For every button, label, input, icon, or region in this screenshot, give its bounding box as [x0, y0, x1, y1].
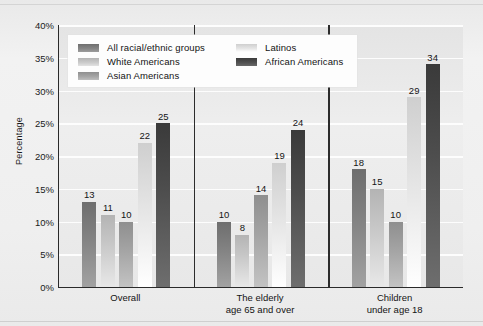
legend-item: Latinos — [236, 41, 343, 55]
bar-value-label: 15 — [362, 176, 392, 187]
bar-value-label: 19 — [264, 150, 294, 161]
bar — [156, 123, 170, 287]
bar-value-label: 13 — [74, 189, 104, 200]
bar-value-label: 18 — [344, 157, 374, 168]
category-label-line: Overall — [110, 292, 140, 304]
y-axis-tick-0%: 0% — [8, 282, 54, 293]
legend-label: African Americans — [265, 56, 343, 67]
bar-value-label: 14 — [246, 183, 276, 194]
bar-chart: Percentage 0%5%10%15%20%25%30%35%40% 131… — [0, 0, 483, 326]
y-axis-tick-25%: 25% — [8, 118, 54, 129]
bar-value-label: 10 — [111, 209, 141, 220]
legend-label: Asian Americans — [107, 70, 179, 81]
category-label-line: age 65 and over — [226, 304, 295, 316]
legend-column-right: LatinosAfrican Americans — [236, 41, 343, 69]
y-axis-tick-10%: 10% — [8, 216, 54, 227]
y-axis-tick-labels: 0%5%10%15%20%25%30%35%40% — [0, 0, 54, 326]
legend-item: Asian Americans — [78, 69, 205, 83]
bar-value-label: 25 — [148, 111, 178, 122]
category-label-line: under age 18 — [367, 304, 423, 316]
x-axis-category-label: Overall — [110, 292, 140, 304]
x-axis-category-label: The elderlyage 65 and over — [226, 292, 295, 315]
legend-item: White Americans — [78, 55, 205, 69]
legend-item: African Americans — [236, 55, 343, 69]
legend-swatch-icon — [78, 44, 99, 52]
legend-item: All racial/ethnic groups — [78, 41, 205, 55]
y-axis-tick-40%: 40% — [8, 20, 54, 31]
bar-value-label: 29 — [399, 85, 429, 96]
category-label-line: The elderly — [226, 292, 295, 304]
bar-value-label: 24 — [283, 117, 313, 128]
bar-value-label: 22 — [130, 130, 160, 141]
bar — [254, 195, 268, 287]
bar — [370, 189, 384, 287]
chart-legend: All racial/ethnic groupsWhite AmericansA… — [68, 35, 357, 87]
legend-column-left: All racial/ethnic groupsWhite AmericansA… — [78, 41, 205, 83]
legend-label: White Americans — [107, 56, 180, 67]
bar — [272, 163, 286, 287]
bar — [389, 222, 403, 288]
bar-value-label: 8 — [227, 222, 257, 233]
legend-swatch-icon — [78, 58, 99, 66]
legend-swatch-icon — [78, 72, 99, 80]
bar — [119, 222, 133, 288]
x-axis-category-label: Childrenunder age 18 — [367, 292, 423, 315]
bar — [82, 202, 96, 287]
bar — [407, 97, 421, 287]
y-axis-tick-30%: 30% — [8, 85, 54, 96]
bar-value-label: 10 — [381, 209, 411, 220]
legend-swatch-icon — [236, 44, 257, 52]
y-axis-tick-15%: 15% — [8, 183, 54, 194]
legend-swatch-icon — [236, 58, 257, 66]
bar-value-label: 34 — [418, 52, 448, 63]
legend-label: All racial/ethnic groups — [107, 42, 205, 53]
bar — [426, 64, 440, 287]
bar — [101, 215, 115, 287]
bar — [235, 235, 249, 287]
y-axis-tick-35%: 35% — [8, 52, 54, 63]
legend-label: Latinos — [265, 42, 296, 53]
y-axis-tick-20%: 20% — [8, 151, 54, 162]
bar — [291, 130, 305, 287]
category-label-line: Children — [367, 292, 423, 304]
y-axis-tick-5%: 5% — [8, 249, 54, 260]
bar-value-label: 10 — [209, 209, 239, 220]
x-axis-category-labels: OverallThe elderlyage 65 and overChildre… — [58, 292, 462, 326]
bar — [138, 143, 152, 287]
